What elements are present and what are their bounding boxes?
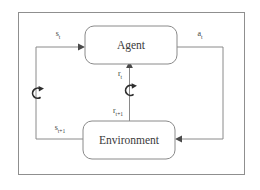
environment-label: Environment bbox=[99, 134, 160, 146]
label-reward-t-sub: t bbox=[121, 74, 123, 80]
connector-state-loop bbox=[36, 47, 83, 139]
clockwise-cycle-icon-left bbox=[33, 86, 44, 98]
node-environment[interactable]: Environment bbox=[83, 121, 175, 159]
clockwise-cycle-icon-center bbox=[126, 83, 137, 95]
label-action-t-sub: t bbox=[201, 34, 203, 40]
label-state-t1: st+1 bbox=[55, 123, 66, 134]
label-state-t-sub: t bbox=[59, 34, 61, 40]
rl-loop-diagram: Agent Environment st st+1 at rt rt+1 bbox=[0, 0, 260, 190]
arrowhead-state-into-agent bbox=[78, 44, 85, 51]
label-reward-t: rt bbox=[118, 69, 123, 80]
label-reward-t1-sub: t+1 bbox=[116, 111, 124, 117]
arrowhead-action-into-environment bbox=[175, 136, 182, 143]
label-reward-t1: rt+1 bbox=[113, 106, 123, 117]
connector-action-loop bbox=[177, 47, 223, 139]
label-state-t: st bbox=[56, 29, 61, 40]
label-state-t1-sub: t+1 bbox=[58, 128, 66, 134]
agent-label: Agent bbox=[117, 39, 146, 52]
node-agent[interactable]: Agent bbox=[85, 26, 177, 64]
label-action-t: at bbox=[197, 29, 203, 40]
diagram-canvas: Agent Environment st st+1 at rt rt+1 bbox=[0, 0, 260, 190]
